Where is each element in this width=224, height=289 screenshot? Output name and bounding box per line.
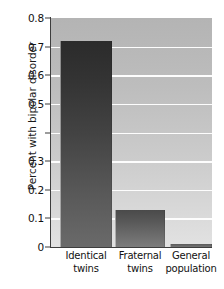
y-axis-tick-label: 0.3	[28, 155, 44, 167]
x-axis-tick-label: Generalpopulation	[151, 250, 224, 275]
y-axis-tick-labels: 0.80.70.60.50.30.20.10	[12, 18, 44, 247]
y-axis-tick-label: 0.7	[28, 41, 44, 53]
plot-area	[51, 18, 212, 247]
x-axis-line	[50, 247, 212, 248]
y-axis-tick-label: 0.6	[28, 69, 44, 81]
bar	[60, 41, 112, 247]
y-axis-tick-label: 0	[38, 241, 44, 253]
x-axis-tick-label-line2: population	[151, 263, 224, 276]
x-axis-tick-labels: IdenticaltwinsFraternaltwinsGeneralpopul…	[51, 250, 212, 288]
bar	[115, 210, 165, 247]
y-axis-tick-label: 0.5	[28, 98, 44, 110]
bar-chart-figure: Percent with bipolar disorder 0.80.70.60…	[0, 0, 224, 289]
x-axis-tick-label-line1: General	[151, 250, 224, 263]
y-axis-tick-label: 0.1	[28, 212, 44, 224]
y-axis-tick-label: 0.2	[28, 184, 44, 196]
y-axis-tick-label: 0.8	[28, 12, 44, 24]
